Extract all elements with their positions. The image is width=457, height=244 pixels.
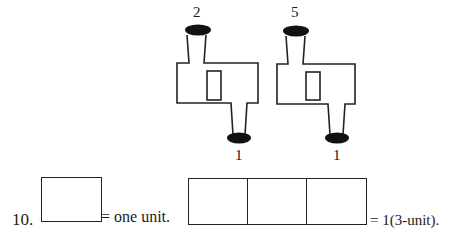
bottom-opening-right: [325, 133, 349, 144]
input-label-right: 5: [291, 5, 299, 20]
top-opening-left: [185, 25, 211, 36]
problem-number: 10.: [12, 210, 33, 230]
three-unit-box-1: [188, 178, 248, 225]
output-label-right: 1: [333, 148, 341, 163]
machine-left: [177, 35, 258, 135]
one-unit-box: [41, 177, 102, 222]
one-unit-text: = one unit.: [101, 208, 170, 226]
three-unit-box-2: [247, 178, 307, 225]
three-unit-text: = 1(3-unit).: [370, 212, 439, 229]
output-label-left: 1: [235, 148, 243, 163]
machine-right: [277, 36, 355, 135]
input-label-left: 2: [193, 5, 201, 20]
three-unit-box-3: [306, 178, 367, 225]
bottom-opening-left: [227, 133, 251, 144]
machine-diagram: [0, 0, 457, 175]
top-opening-right: [283, 26, 309, 37]
